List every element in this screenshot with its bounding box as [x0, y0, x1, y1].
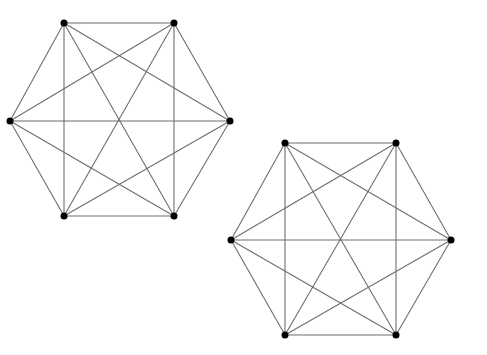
vertex-tl	[282, 140, 289, 147]
vertex-tl	[61, 20, 68, 27]
edge-tr-l	[10, 23, 174, 121]
vertex-br	[171, 213, 178, 220]
vertex-bl	[282, 332, 289, 339]
edge-l-br	[231, 240, 396, 335]
k6-graph-left	[7, 20, 234, 220]
vertex-tr	[393, 140, 400, 147]
graph-diagram	[0, 0, 487, 355]
vertex-bl	[61, 213, 68, 220]
edge-tr-l	[231, 143, 396, 240]
edge-tr-r	[396, 143, 451, 240]
edge-tl-r	[64, 23, 230, 121]
vertex-br	[393, 332, 400, 339]
vertex-l	[228, 237, 235, 244]
vertex-l	[7, 118, 14, 125]
edge-l-tl	[10, 23, 64, 121]
vertex-tr	[171, 20, 178, 27]
edge-bl-l	[231, 240, 285, 335]
vertex-r	[448, 237, 455, 244]
k6-graph-right	[228, 140, 455, 339]
edge-r-br	[396, 240, 451, 335]
edge-l-br	[10, 121, 174, 216]
edge-r-bl	[285, 240, 451, 335]
edge-bl-l	[10, 121, 64, 216]
edge-tr-r	[174, 23, 230, 121]
vertex-r	[227, 118, 234, 125]
edge-r-bl	[64, 121, 230, 216]
diagram-canvas	[0, 0, 487, 355]
edge-r-br	[174, 121, 230, 216]
edge-l-tl	[231, 143, 285, 240]
